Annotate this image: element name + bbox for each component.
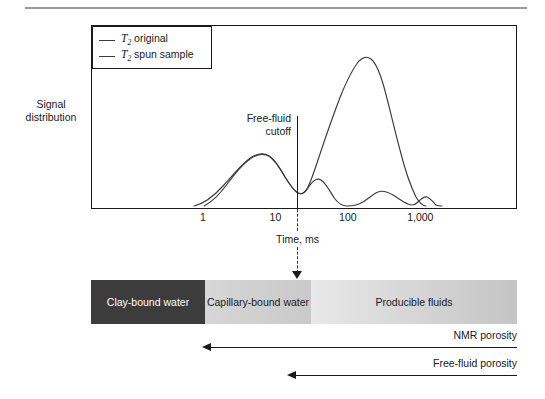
band-clay-bound-water-label: Clay-bound water <box>107 296 189 308</box>
x-axis-tick-labels: 1 10 100 1,000 <box>91 211 517 227</box>
band-clay-bound-water: Clay-bound water <box>91 280 205 324</box>
free-fluid-porosity-annotation: Free-fluid porosity <box>287 357 517 387</box>
figure-root: T2 original T2 spun sample Signal distri… <box>0 0 545 399</box>
legend-item-t2-original: T2 original <box>99 32 211 48</box>
cutoff-dashed-connector-upper <box>297 209 298 231</box>
cutoff-label-line1: Free-fluid <box>205 112 291 125</box>
cutoff-arrowhead-icon <box>292 271 302 279</box>
x-tick-1000: 1,000 <box>407 211 433 223</box>
legend-item-t2-spun-sample: T2 spun sample <box>99 48 211 64</box>
legend-label-t2-spun-sample: T2 spun sample <box>121 49 194 63</box>
legend-label-t2-original: T2 original <box>121 33 168 47</box>
x-tick-10: 10 <box>270 211 282 223</box>
x-tick-1: 1 <box>200 211 206 223</box>
band-capillary-bound-water-label: Capillary-bound water <box>207 296 309 308</box>
free-fluid-cutoff-label: Free-fluid cutoff <box>205 112 291 137</box>
nmr-porosity-label: NMR porosity <box>453 329 517 341</box>
chart-legend: T2 original T2 spun sample <box>92 26 212 69</box>
free-fluid-cutoff-line <box>297 116 298 209</box>
y-axis-label-line1: Signal <box>18 98 84 111</box>
nmr-porosity-arrow-line <box>210 347 517 348</box>
fluid-bands: Clay-bound water Capillary-bound water P… <box>91 280 517 324</box>
x-axis-title: Time, ms <box>245 233 350 245</box>
legend-line-icon <box>99 40 115 41</box>
band-producible-fluids: Producible fluids <box>311 280 517 324</box>
free-fluid-porosity-label: Free-fluid porosity <box>433 357 517 369</box>
arrow-left-icon <box>287 371 296 379</box>
arrow-left-icon <box>202 343 211 351</box>
cutoff-label-line2: cutoff <box>205 125 291 138</box>
top-divider-rule <box>25 7 527 9</box>
y-axis-label-line2: distribution <box>18 111 84 124</box>
curve-t2-spun-sample <box>204 154 442 206</box>
y-axis-label: Signal distribution <box>18 98 84 124</box>
x-tick-100: 100 <box>339 211 357 223</box>
cutoff-dashed-connector-lower <box>297 247 298 273</box>
free-fluid-porosity-arrow-line <box>295 375 517 376</box>
band-capillary-bound-water: Capillary-bound water <box>205 280 311 324</box>
band-producible-fluids-label: Producible fluids <box>375 296 452 308</box>
nmr-porosity-annotation: NMR porosity <box>202 329 517 359</box>
legend-line-icon <box>99 56 115 57</box>
